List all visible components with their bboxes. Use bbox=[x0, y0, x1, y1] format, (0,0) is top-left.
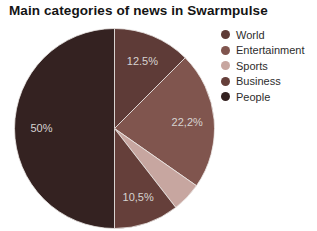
pie-label-business: 10,5% bbox=[123, 191, 154, 203]
legend-dot-icon bbox=[221, 92, 230, 101]
legend-label: Entertainment bbox=[236, 44, 304, 56]
legend-dot-icon bbox=[221, 61, 230, 70]
pie-label-people: 50% bbox=[30, 122, 52, 134]
legend-item-entertainment: Entertainment bbox=[221, 43, 304, 59]
chart-panel: Main categories of news in Swarmpulse 12… bbox=[0, 0, 317, 231]
legend-dot-icon bbox=[221, 30, 230, 39]
pie-label-world: 12.5% bbox=[127, 55, 158, 67]
legend-item-sports: Sports bbox=[221, 58, 304, 74]
legend-dot-icon bbox=[221, 46, 230, 55]
legend-dot-icon bbox=[221, 77, 230, 86]
legend-item-business: Business bbox=[221, 74, 304, 90]
legend-label: World bbox=[236, 29, 265, 41]
legend-label: People bbox=[236, 91, 270, 103]
pie-chart: 12.5%22,2%10,5%50% bbox=[12, 26, 217, 231]
pie-label-entertainment: 22,2% bbox=[172, 116, 203, 128]
chart-title: Main categories of news in Swarmpulse bbox=[9, 3, 268, 18]
legend: WorldEntertainmentSportsBusinessPeople bbox=[221, 27, 304, 105]
legend-label: Sports bbox=[236, 60, 268, 72]
legend-item-people: People bbox=[221, 89, 304, 105]
legend-item-world: World bbox=[221, 27, 304, 43]
legend-label: Business bbox=[236, 75, 281, 87]
